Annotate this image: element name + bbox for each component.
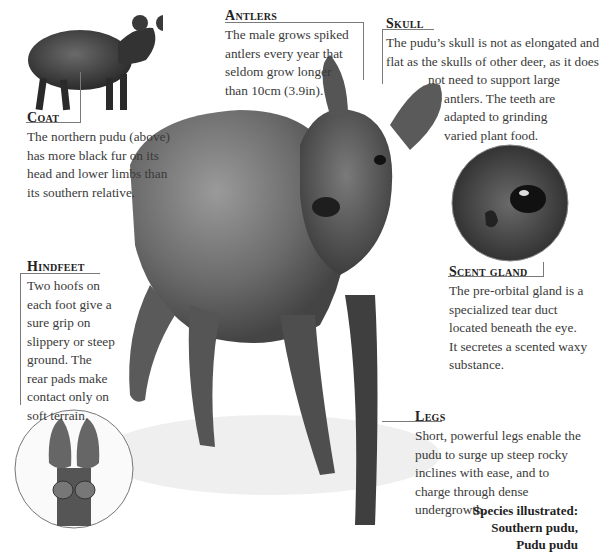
antlers-text: The male grows spiked antlers every year… <box>225 26 357 100</box>
antlers-leader-line-v <box>363 22 364 80</box>
species-common-name: Southern pudu, <box>470 519 578 536</box>
scent-gland-callout: Scent gland The pre-orbital gland is a s… <box>449 264 588 375</box>
hindfoot-hoof-detail <box>13 408 135 530</box>
skull-text-line: not need to support large <box>386 71 586 90</box>
species-scientific-name: Pudu pudu <box>470 536 578 552</box>
skull-leader-line-v <box>382 29 383 84</box>
skull-text-line: antlers. The teeth are <box>386 90 586 109</box>
skull-heading: Skull <box>386 16 586 31</box>
skull-text: The pudu’s skull is not as elongated and… <box>386 34 586 145</box>
skull-text-line: The pudu’s skull is not as elongated and <box>386 34 586 53</box>
hindfeet-text: Two hoofs on each foot give a sure grip … <box>27 277 115 425</box>
skull-callout: Skull The pudu’s skull is not as elongat… <box>386 16 586 145</box>
antlers-callout: Antlers The male grows spiked antlers ev… <box>225 8 357 100</box>
species-caption: Species illustrated: Southern pudu, Pudu… <box>470 502 578 552</box>
coat-callout: Coat The northern pudu (above) has more … <box>27 110 182 202</box>
scent-gland-text: The pre-orbital gland is a specialized t… <box>449 282 588 375</box>
skull-text-line: flat as the skulls of other deer, as it … <box>386 53 586 72</box>
skull-text-line: varied plant food. <box>386 127 586 146</box>
hindfeet-callout: Hindfeet Two hoofs on each foot give a s… <box>27 259 115 425</box>
species-label: Species illustrated: <box>470 502 578 519</box>
hindfeet-leader-line-v <box>20 273 21 405</box>
antlers-heading: Antlers <box>225 8 357 23</box>
hindfeet-heading: Hindfeet <box>27 259 115 274</box>
scent-gland-heading: Scent gland <box>449 264 588 279</box>
coat-text: The northern pudu (above) has more black… <box>27 128 182 202</box>
skull-text-line: adapted to grinding <box>386 108 586 127</box>
eye-scent-gland-detail <box>450 143 570 263</box>
coat-heading: Coat <box>27 110 182 125</box>
legs-heading: Legs <box>415 409 585 424</box>
